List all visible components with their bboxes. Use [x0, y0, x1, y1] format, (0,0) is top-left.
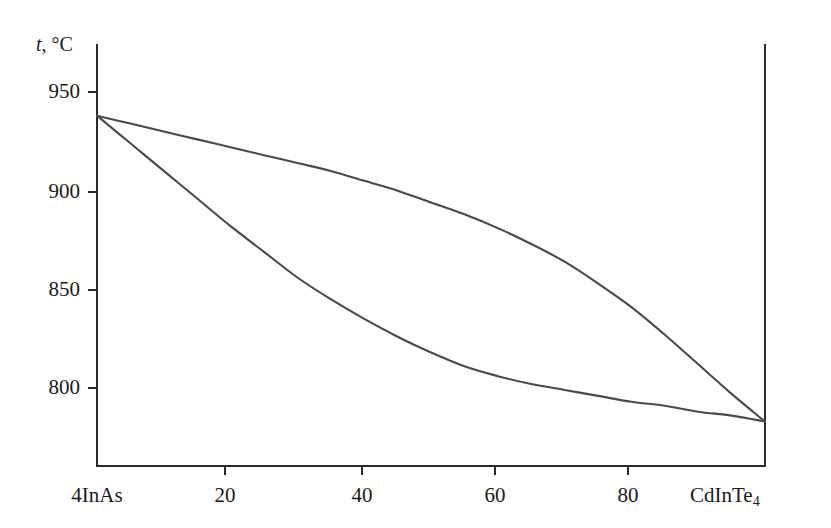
- x-tick-label-40: 40: [322, 485, 402, 506]
- x-tick-label-4inas: 4InAs: [42, 485, 152, 506]
- y-tick-label-800: 800: [20, 377, 80, 398]
- x-tick-label-cdinte4-subscript: 4: [753, 493, 760, 509]
- y-tick-label-900: 900: [20, 181, 80, 202]
- x-tick-label-cdinte4: CdInTe4: [690, 485, 820, 508]
- y-axis-title: t, °C: [36, 33, 73, 56]
- solidus-curve: [97, 116, 765, 422]
- y-axis-ticks: [88, 92, 97, 388]
- plot-canvas: [0, 0, 831, 528]
- liquidus-curve: [97, 116, 765, 422]
- y-tick-label-950: 950: [20, 81, 80, 102]
- x-tick-label-60: 60: [455, 485, 535, 506]
- x-axis-ticks: [225, 466, 628, 475]
- y-tick-label-850: 850: [20, 279, 80, 300]
- x-tick-label-80: 80: [588, 485, 668, 506]
- x-tick-label-cdinte4-main: CdInTe: [690, 483, 753, 507]
- x-tick-label-20: 20: [185, 485, 265, 506]
- y-axis-title-unit: , °C: [42, 33, 73, 55]
- chart-figure: t, °C 950 900 850 800 4InAs 20 40 60 80 …: [0, 0, 831, 528]
